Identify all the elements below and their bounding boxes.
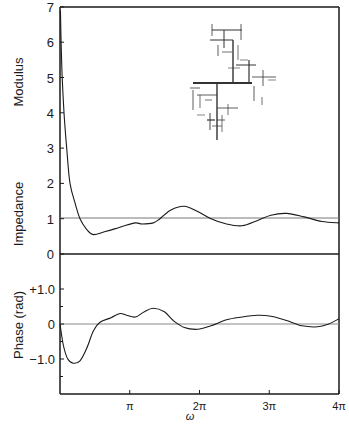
x-tick-label: 3π: [262, 400, 276, 412]
bottom-y-ticks: +1.00−1.0: [29, 282, 64, 377]
y-tick-label: 0: [48, 317, 55, 332]
x-tick-label: 4π: [332, 400, 346, 412]
top-ylabel-modulus: Modulus: [11, 57, 26, 107]
y-tick-label: 0: [47, 247, 54, 262]
y-tick-label: 2: [47, 176, 54, 191]
y-tick-label: −1.0: [29, 352, 55, 367]
y-tick-label: +1.0: [29, 282, 55, 297]
y-tick-label: 6: [47, 35, 54, 50]
y-tick-label: 3: [47, 141, 54, 156]
x-tick-label: 2π: [193, 400, 207, 412]
top-panel-frame: [60, 7, 339, 394]
chart-figure: 76543210 +1.00−1.0 π2π3π4π Modulus Imped…: [0, 0, 349, 433]
top-ylabel-impedance: Impedance: [11, 182, 26, 246]
modulus-curve: [60, 10, 339, 234]
y-tick-label: 5: [47, 71, 54, 86]
x-tick-label: π: [126, 400, 134, 412]
y-tick-label: 1: [47, 212, 54, 227]
phase-curve: [60, 308, 339, 363]
bottom-ylabel: Phase (rad): [11, 291, 26, 359]
y-tick-label: 7: [47, 0, 54, 15]
tree-network-inset: [190, 24, 276, 140]
x-axis-label: ω: [186, 410, 195, 422]
y-tick-label: 4: [47, 106, 54, 121]
